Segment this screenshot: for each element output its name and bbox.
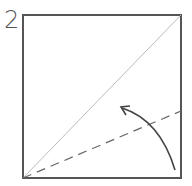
diagonal-crease-line (23, 15, 181, 178)
fold-diagram (0, 0, 192, 186)
valley-fold-line (23, 111, 181, 178)
